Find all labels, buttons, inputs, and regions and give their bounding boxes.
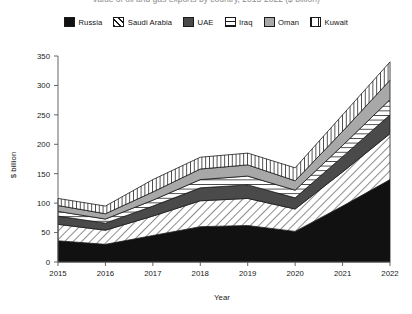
x-tick-label: 2020 [286, 269, 304, 278]
x-tick-label: 2022 [381, 269, 398, 278]
y-tick-label: 350 [37, 52, 51, 61]
area-bands [58, 62, 390, 262]
x-tick-label: 2017 [144, 269, 161, 278]
y-tick-label: 150 [37, 170, 51, 179]
x-tick-label: 2021 [334, 269, 351, 278]
y-tick-label: 300 [37, 81, 51, 90]
x-tick-label: 2016 [97, 269, 114, 278]
y-tick-label: 250 [37, 111, 51, 120]
chart-page: Value of oil and gas exports by country,… [0, 0, 412, 314]
x-tick-label: 2019 [239, 269, 256, 278]
y-tick-label: 200 [37, 140, 51, 149]
x-tick-label: 2015 [49, 269, 67, 278]
y-tick-label: 100 [37, 199, 51, 208]
x-axis: 20152016201720182019202020212022 [49, 262, 398, 278]
y-tick-label: 0 [46, 258, 51, 267]
stacked-area-chart: 050100150200250300350 201520162017201820… [0, 0, 412, 314]
chart-canvas: 050100150200250300350 201520162017201820… [0, 0, 412, 314]
x-tick-label: 2018 [192, 269, 209, 278]
y-tick-label: 50 [41, 228, 50, 237]
x-axis-title: Year [214, 293, 230, 302]
y-axis-title: $ billion [9, 152, 18, 178]
